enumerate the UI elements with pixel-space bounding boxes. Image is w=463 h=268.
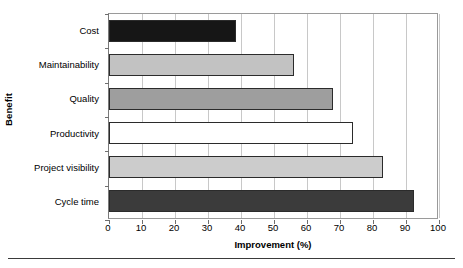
gridline [439, 14, 440, 218]
bar[interactable] [109, 88, 333, 110]
y-axis-title: Benefit [3, 93, 14, 126]
bar-row [109, 82, 437, 116]
bar[interactable] [109, 20, 236, 42]
bar-row [109, 14, 437, 48]
x-axis-tick-label: 70 [334, 222, 345, 233]
y-axis-category-label: Project visibility [16, 150, 104, 184]
bar-row [109, 184, 437, 218]
x-axis-tick-label: 60 [301, 222, 312, 233]
x-axis-tick-label: 30 [202, 222, 213, 233]
bar-chart-figure: Benefit CostMaintainabilityQualityProduc… [0, 0, 463, 268]
x-axis-tick-label: 10 [136, 222, 147, 233]
x-axis-tick-label: 50 [268, 222, 279, 233]
x-axis-title: Improvement (%) [108, 239, 438, 250]
y-axis-category-label: Productivity [16, 116, 104, 150]
y-axis-category-label: Quality [16, 82, 104, 116]
bar[interactable] [109, 122, 353, 144]
x-axis-tick-label: 80 [367, 222, 378, 233]
x-axis-tick-labels: 0102030405060708090100 [108, 222, 438, 236]
y-axis-category-label: Maintainability [16, 47, 104, 81]
bar-row [109, 48, 437, 82]
plot-area [108, 13, 438, 219]
y-axis-category-label: Cost [16, 13, 104, 47]
y-axis-tick-labels: CostMaintainabilityQualityProductivityPr… [16, 13, 104, 219]
bottom-divider-rule [8, 258, 455, 259]
bar[interactable] [109, 156, 383, 178]
x-axis-tick-label: 90 [400, 222, 411, 233]
bar[interactable] [109, 54, 294, 76]
x-axis-tick-label: 40 [235, 222, 246, 233]
y-axis-title-container: Benefit [0, 0, 16, 219]
x-axis-tick-label: 20 [169, 222, 180, 233]
bar-row [109, 116, 437, 150]
y-axis-category-label: Cycle time [16, 185, 104, 219]
bar[interactable] [109, 190, 414, 212]
bar-series [109, 14, 437, 218]
x-axis-tick-label: 100 [430, 222, 446, 233]
x-axis-tick-label: 0 [105, 222, 110, 233]
bar-row [109, 150, 437, 184]
